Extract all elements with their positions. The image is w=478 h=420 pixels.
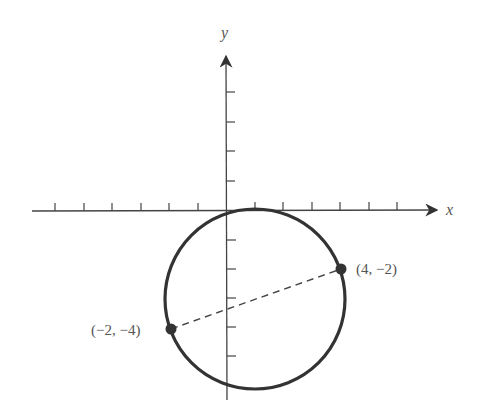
point-neg2-neg4 (166, 324, 177, 335)
x-axis-label: x (445, 201, 453, 218)
y-ticks (226, 92, 236, 356)
circle-diagram: y x (4, −2) (−2, −4) (0, 0, 478, 420)
y-axis (226, 56, 227, 400)
point-label-neg2-neg4: (−2, −4) (91, 322, 140, 339)
point-label-4-neg2: (4, −2) (356, 261, 397, 278)
y-axis-label: y (219, 24, 229, 42)
dashed-diameter (171, 269, 341, 329)
point-4-neg2 (336, 264, 347, 275)
